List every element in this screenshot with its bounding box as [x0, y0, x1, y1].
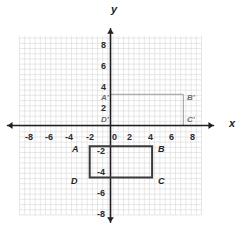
vertex-label-b-prime: B': [187, 94, 195, 102]
coordinate-plane-graphic: [0, 0, 243, 248]
vertex-label-d: D: [71, 177, 78, 186]
vertex-label-c-prime: C': [187, 116, 195, 124]
axis-lines: [8, 29, 214, 222]
y-tick-neg2: -2: [97, 147, 105, 156]
x-tick-pos4: 4: [148, 133, 153, 142]
x-tick-pos2: 2: [127, 133, 132, 142]
x-tick-pos8: 8: [190, 133, 195, 142]
x-tick-neg4: -4: [65, 133, 73, 142]
vertex-label-a: A: [72, 145, 79, 154]
image-rectangle-a-prime-b-prime-c-prime-d-prime: [111, 94, 184, 125]
vertex-label-c: C: [158, 177, 165, 186]
y-tick-pos2: 2: [101, 104, 106, 113]
x-axis-label: x: [229, 118, 235, 129]
x-tick-zero: 0: [112, 133, 117, 142]
x-tick-neg2: -2: [86, 133, 94, 142]
y-tick-neg6: -6: [97, 189, 105, 198]
y-tick-pos8: 8: [101, 41, 106, 50]
vertex-label-b: B: [158, 145, 165, 154]
x-tick-neg8: -8: [25, 133, 33, 142]
coordinate-plane-figure: y x -8 -6 -4 -2 0 2 4 6 8 8 6 4 2 -2 -4 …: [0, 0, 243, 248]
y-tick-pos4: 4: [101, 83, 106, 92]
x-tick-pos6: 6: [169, 133, 174, 142]
x-tick-neg6: -6: [45, 133, 53, 142]
y-tick-neg8: -8: [97, 210, 105, 219]
vertex-label-d-prime: D': [101, 116, 109, 124]
y-tick-neg4: -4: [97, 168, 105, 177]
y-axis-label: y: [111, 4, 117, 15]
vertex-label-a-prime: A': [101, 94, 109, 102]
y-tick-pos6: 6: [101, 62, 106, 71]
